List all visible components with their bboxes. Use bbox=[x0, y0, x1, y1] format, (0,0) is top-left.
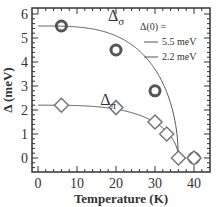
sigma-data-point bbox=[111, 45, 121, 55]
x-axis-label: Temperature (K) bbox=[74, 191, 168, 206]
y-tick-label: 0 bbox=[21, 151, 28, 166]
x-tick-label: 30 bbox=[148, 176, 162, 191]
legend-title: Δ(0) = bbox=[140, 21, 167, 33]
plot-frame bbox=[32, 8, 210, 172]
x-tick-label: 10 bbox=[70, 176, 84, 191]
fit-curve bbox=[38, 105, 178, 158]
y-tick-label: 3 bbox=[21, 79, 28, 94]
y-tick-label: 1 bbox=[21, 127, 28, 142]
x-tick-label: 0 bbox=[35, 176, 42, 191]
delta-pi-label: Δπ bbox=[100, 91, 116, 111]
y-tick-label: 5 bbox=[21, 31, 28, 46]
y-tick-label: 6 bbox=[21, 7, 28, 22]
delta-sigma-label: Δσ bbox=[108, 7, 124, 27]
pi-data-point bbox=[187, 151, 201, 165]
gap-temperature-chart: 0102030400123456Temperature (K)Δ (meV)Δσ… bbox=[0, 0, 216, 207]
pi-data-point bbox=[54, 98, 68, 112]
y-axis-label: Δ (meV) bbox=[0, 67, 15, 112]
pi-data-point bbox=[171, 151, 185, 165]
legend-entry: 5.5 meV bbox=[162, 36, 197, 47]
sigma-data-point bbox=[150, 86, 160, 96]
x-tick-label: 40 bbox=[187, 176, 201, 191]
x-tick-label: 20 bbox=[109, 176, 123, 191]
legend-entry: 2.2 meV bbox=[162, 51, 197, 62]
pi-data-point bbox=[160, 127, 174, 141]
y-tick-label: 4 bbox=[21, 55, 28, 70]
y-tick-label: 2 bbox=[21, 103, 28, 118]
pi-data-point bbox=[148, 115, 162, 129]
